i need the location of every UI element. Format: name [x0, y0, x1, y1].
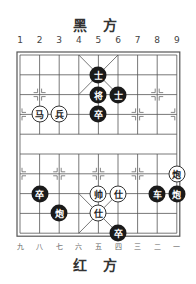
bottom-column-label: 七: [52, 241, 66, 251]
bottom-column-label: 六: [72, 241, 86, 251]
red-piece[interactable]: 炮: [168, 165, 185, 182]
bottom-column-label: 三: [131, 241, 145, 251]
red-side-title: 红 方: [0, 254, 196, 274]
bottom-column-label: 五: [91, 241, 105, 251]
black-piece[interactable]: 士: [110, 86, 127, 103]
red-piece[interactable]: 帅: [90, 185, 107, 202]
black-piece[interactable]: 士: [90, 66, 107, 83]
bottom-column-label: 四: [111, 241, 125, 251]
bottom-column-label: 九: [13, 241, 27, 251]
bottom-column-label: 二: [150, 241, 164, 251]
red-piece[interactable]: 兵: [51, 106, 68, 123]
bottom-column-label: 一: [170, 241, 184, 251]
bottom-column-label: 八: [33, 241, 47, 251]
black-piece[interactable]: 卒: [90, 106, 107, 123]
black-piece[interactable]: 车: [149, 185, 166, 202]
black-piece[interactable]: 卒: [31, 185, 48, 202]
black-piece[interactable]: 炮: [168, 185, 185, 202]
red-piece[interactable]: 仕: [110, 185, 127, 202]
red-piece[interactable]: 马: [31, 106, 48, 123]
black-piece[interactable]: 卒: [110, 225, 127, 242]
black-piece[interactable]: 将: [90, 86, 107, 103]
black-piece[interactable]: 炮: [51, 205, 68, 222]
red-piece[interactable]: 仕: [90, 205, 107, 222]
